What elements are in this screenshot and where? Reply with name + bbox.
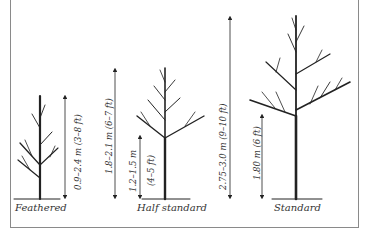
half-standard-height-label: 1.8–2.1 m (6–7 ft) <box>104 98 114 174</box>
standard-height-label: 2.75–3.0 m (9–10 ft) <box>218 103 228 190</box>
standard-stem-label: 1.80 m (6 ft) <box>252 126 262 180</box>
half-standard-stem-label-line1: 1.2–1.5 m <box>128 150 138 192</box>
caption-standard: Standard <box>274 202 321 213</box>
standard-tree-icon <box>250 16 350 199</box>
caption-feathered: Feathered <box>15 202 67 213</box>
half-standard-stem-label-line2: (4–5 ft) <box>146 155 156 186</box>
feathered-height-label: 0.9–2.4 m (3–8 ft) <box>73 114 83 190</box>
caption-half-standard: Half standard <box>137 202 207 213</box>
feathered-tree-icon <box>14 96 60 199</box>
tree-illustrations <box>0 0 372 236</box>
